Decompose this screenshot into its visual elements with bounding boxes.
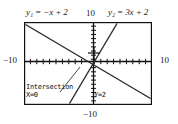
equation-y1-text: y₁ = −x + 2 <box>26 7 68 17</box>
axis-label-ymax: 10 <box>86 9 95 18</box>
equation-label-y2: y₂ = 3x + 2 <box>108 8 148 17</box>
axis-label-xmax: 10 <box>160 56 169 65</box>
intersection-y-value: Y=2 <box>94 92 106 100</box>
equation-label-y1: y₁ = −x + 2 <box>26 8 68 17</box>
equation-y2-text: y₂ = 3x + 2 <box>108 7 148 17</box>
graphing-calculator-screenshot: y₁ = −x + 2 y₂ = 3x + 2 10 −10 10 −10 <box>0 0 178 124</box>
plot-area: Intersection X=0 Y=2 <box>24 22 152 105</box>
intersection-x-value: X=0 <box>26 92 38 100</box>
plot-svg <box>24 22 152 105</box>
axis-label-ymin: −10 <box>83 110 97 119</box>
axis-label-xmin: −10 <box>3 56 17 65</box>
